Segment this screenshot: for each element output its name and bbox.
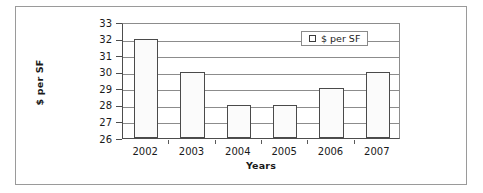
y-axis-tick-label: 31 [88, 51, 112, 62]
x-axis-tick-mark [307, 140, 308, 144]
figure-frame: $ per SF 2627282930313233 20022003200420… [15, 6, 467, 185]
legend-entry-label: $ per SF [321, 33, 360, 44]
x-axis-tick-label: 2004 [215, 145, 261, 158]
y-axis-title: $ per SF [34, 38, 45, 128]
y-axis-tick-label: 26 [88, 134, 112, 145]
y-axis-tick-label: 29 [88, 84, 112, 95]
chart-legend: $ per SF [301, 31, 368, 46]
y-axis-tick-label: 33 [88, 18, 112, 29]
y-axis-tick-label: 28 [88, 100, 112, 111]
y-axis-tick-label: 27 [88, 117, 112, 128]
x-axis-tick-mark [261, 140, 262, 144]
open-square-marker-icon [309, 35, 316, 42]
bar [180, 72, 205, 138]
x-axis-tick-mark [168, 140, 169, 144]
x-axis-title: Years [122, 160, 400, 171]
x-axis-tick-label: 2005 [261, 145, 307, 158]
x-axis-tick-label: 2003 [168, 145, 214, 158]
bar [366, 72, 391, 138]
x-axis-tick-mark [354, 140, 355, 144]
y-axis-tick-label: 30 [88, 67, 112, 78]
x-axis-tick-label: 2007 [354, 145, 400, 158]
x-axis-tick-label: 2002 [122, 145, 168, 158]
bar-chart: $ per SF 2627282930313233 20022003200420… [16, 7, 468, 186]
bar [273, 105, 298, 138]
bar [134, 39, 159, 138]
bar [227, 105, 252, 138]
bar [319, 88, 344, 138]
y-axis-tick-labels: 2627282930313233 [88, 23, 112, 151]
x-axis-tick-label: 2006 [307, 145, 353, 158]
y-axis-tick-label: 32 [88, 34, 112, 45]
y-axis-tick-mark [116, 139, 122, 140]
x-axis-tick-labels: 200220032004200520062007 [122, 145, 400, 161]
x-axis-tick-mark [215, 140, 216, 144]
